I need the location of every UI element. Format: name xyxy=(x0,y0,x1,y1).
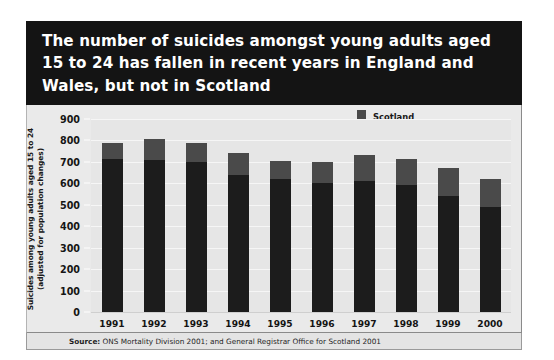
chart-title-banner: The number of suicides amongst young adu… xyxy=(26,21,522,105)
x-axis-tick-label: 1993 xyxy=(183,319,208,329)
y-axis-tick xyxy=(84,182,90,184)
y-axis-tick xyxy=(84,268,90,270)
y-axis-tick-label: 700 xyxy=(60,156,80,167)
source-label: Source: xyxy=(69,337,100,346)
y-axis-tick-label: 300 xyxy=(60,242,80,253)
x-axis-tick-label: 1997 xyxy=(351,319,376,329)
y-axis-tick-label: 0 xyxy=(73,307,80,318)
bar-segment-scotland[interactable] xyxy=(354,155,375,181)
bar-group[interactable]: 1994 xyxy=(228,153,249,312)
y-axis-tick xyxy=(84,118,90,120)
bar-segment-scotland[interactable] xyxy=(312,162,333,183)
bar-segment-england-and-wales[interactable] xyxy=(396,185,417,312)
y-axis-tick xyxy=(84,225,90,227)
chart-panel: Suicides among young adults aged 15 to 2… xyxy=(26,105,522,333)
x-axis-tick-label: 1996 xyxy=(309,319,334,329)
gridline xyxy=(91,312,511,313)
bar-group[interactable]: 1993 xyxy=(186,143,207,312)
bar-segment-england-and-wales[interactable] xyxy=(102,159,123,312)
y-axis-tick xyxy=(84,139,90,141)
x-axis-tick-label: 1991 xyxy=(99,319,124,329)
bar-group[interactable]: 1991 xyxy=(102,143,123,312)
bar-segment-england-and-wales[interactable] xyxy=(312,183,333,312)
bar-segment-scotland[interactable] xyxy=(480,179,501,207)
y-axis-tick xyxy=(84,204,90,206)
bar-segment-england-and-wales[interactable] xyxy=(186,162,207,312)
source-bar: Source: ONS Mortality Division 2001; and… xyxy=(26,333,522,350)
gridline xyxy=(91,119,511,120)
page-title: The number of suicides amongst young adu… xyxy=(42,30,508,97)
y-axis-tick-label: 100 xyxy=(60,285,80,296)
bar-group[interactable]: 1996 xyxy=(312,162,333,312)
source-text: Source: ONS Mortality Division 2001; and… xyxy=(69,337,381,346)
bar-segment-scotland[interactable] xyxy=(102,143,123,159)
bar-segment-england-and-wales[interactable] xyxy=(438,196,459,312)
x-axis-tick-label: 1995 xyxy=(267,319,292,329)
bar-group[interactable]: 1992 xyxy=(144,139,165,312)
bar-segment-england-and-wales[interactable] xyxy=(144,160,165,312)
figure: The number of suicides amongst young adu… xyxy=(0,0,554,360)
plot-area: 0100200300400500600700800900 19911992199… xyxy=(91,119,511,312)
x-axis-tick-label: 1998 xyxy=(393,319,418,329)
bar-group[interactable]: 1997 xyxy=(354,155,375,312)
y-axis-tick xyxy=(84,311,90,313)
bar-segment-scotland[interactable] xyxy=(270,161,291,179)
bar-segment-scotland[interactable] xyxy=(144,139,165,159)
bar-group[interactable]: 1999 xyxy=(438,168,459,312)
y-axis-label: Suicides among young adults aged 15 to 2… xyxy=(21,105,51,333)
bar-group[interactable]: 1998 xyxy=(396,159,417,312)
x-axis-tick-label: 1992 xyxy=(141,319,166,329)
bar-segment-england-and-wales[interactable] xyxy=(270,179,291,312)
bar-segment-england-and-wales[interactable] xyxy=(228,175,249,312)
x-axis-tick-label: 1999 xyxy=(435,319,460,329)
y-axis-tick-label: 500 xyxy=(60,199,80,210)
y-axis-tick-label: 400 xyxy=(60,221,80,232)
y-axis-tick-label: 900 xyxy=(60,114,80,125)
bar-segment-scotland[interactable] xyxy=(396,159,417,186)
x-axis-tick-label: 1994 xyxy=(225,319,250,329)
bar-segment-england-and-wales[interactable] xyxy=(354,181,375,312)
y-axis-tick xyxy=(84,247,90,249)
bar-segment-scotland[interactable] xyxy=(186,143,207,162)
y-axis-tick-label: 600 xyxy=(60,178,80,189)
bar-segment-scotland[interactable] xyxy=(438,168,459,196)
bar-segment-england-and-wales[interactable] xyxy=(480,207,501,312)
y-axis-tick-label: 200 xyxy=(60,264,80,275)
y-axis-tick xyxy=(84,290,90,292)
x-axis-tick-label: 2000 xyxy=(477,319,502,329)
bar-group[interactable]: 1995 xyxy=(270,161,291,312)
y-axis-tick xyxy=(84,161,90,163)
bar-segment-scotland[interactable] xyxy=(228,153,249,174)
bar-group[interactable]: 2000 xyxy=(480,179,501,312)
y-axis-tick-label: 800 xyxy=(60,135,80,146)
